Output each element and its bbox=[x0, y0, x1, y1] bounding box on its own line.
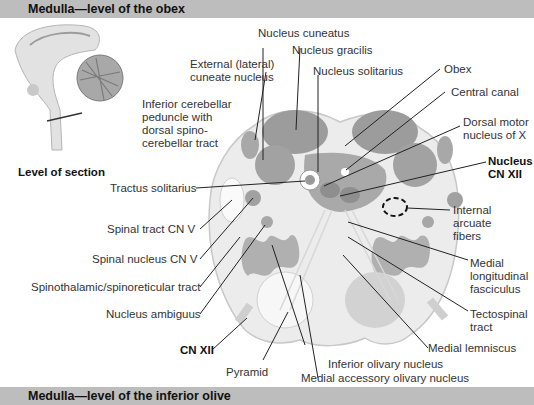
label-nucleus-cuneatus: Nucleus cuneatus bbox=[258, 27, 349, 40]
label-spinal-nucleus-cn-v: Spinal nucleus CN V bbox=[92, 253, 197, 266]
label-medial-lemniscus: Medial lemniscus bbox=[428, 342, 516, 355]
label-nucleus-cn-xii: Nucleus CN XII bbox=[488, 155, 533, 181]
label-nucleus-solitarius: Nucleus solitarius bbox=[313, 65, 403, 78]
label-obex: Obex bbox=[444, 63, 472, 76]
level-of-section-caption: Level of section bbox=[18, 166, 105, 179]
label-internal-arcuate-fibers: Internal arcuate fibers bbox=[453, 204, 491, 243]
label-spinothalamic-tract: Spinothalamic/spinoreticular tract bbox=[31, 281, 200, 294]
label-central-canal: Central canal bbox=[451, 86, 519, 99]
label-tectospinal-tract: Tectospinal tract bbox=[470, 308, 528, 334]
label-cn-xii: CN XII bbox=[180, 344, 214, 357]
footer-bar: Medulla—level of the inferior olive bbox=[0, 387, 534, 405]
footer-title: Medulla—level of the inferior olive bbox=[28, 387, 231, 405]
label-external-cuneate: External (lateral) cuneate nucleus bbox=[190, 58, 270, 84]
label-medial-longitudinal-fasciculus: Medial longitudinal fasciculus bbox=[470, 257, 528, 296]
label-nucleus-ambiguus: Nucleus ambiguus bbox=[106, 308, 201, 321]
label-medial-accessory-olivary-nucleus: Medial accessory olivary nucleus bbox=[301, 372, 469, 385]
label-dorsal-motor-nucleus-x: Dorsal motor nucleus of X bbox=[463, 116, 529, 142]
label-inferior-olivary-nucleus: Inferior olivary nucleus bbox=[328, 358, 443, 371]
label-inferior-cerebellar-peduncle: Inferior cerebellar peduncle with dorsal… bbox=[142, 98, 231, 150]
brain-sagittal-inset bbox=[15, 25, 123, 150]
label-tractus-solitarius: Tractus solitarius bbox=[110, 182, 197, 195]
medulla-cross-section bbox=[209, 110, 463, 346]
label-pyramid: Pyramid bbox=[226, 366, 268, 379]
label-spinal-tract-cn-v: Spinal tract CN V bbox=[107, 223, 195, 236]
label-nucleus-gracilis: Nucleus gracilis bbox=[292, 44, 373, 57]
